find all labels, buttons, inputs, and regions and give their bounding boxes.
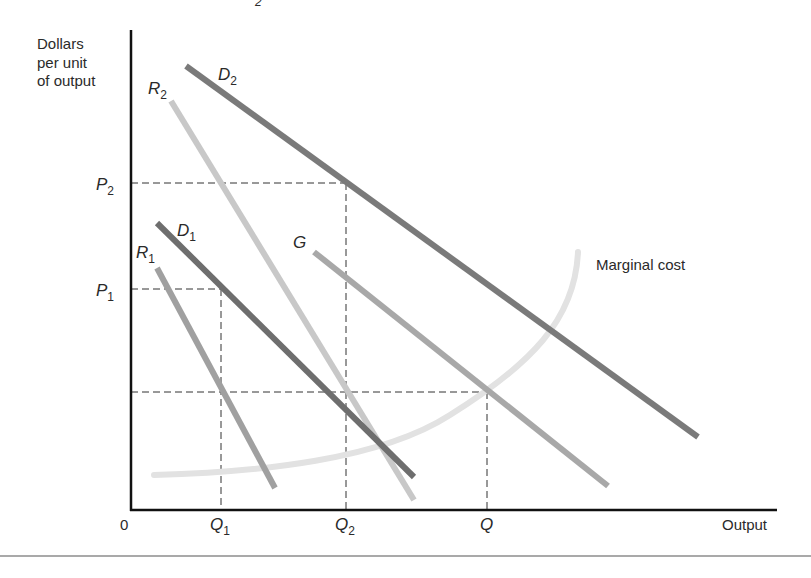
svg-text:Q2: Q2 xyxy=(335,515,355,538)
svg-text:G: G xyxy=(293,233,306,252)
y-axis-label-line1: Dollars xyxy=(37,35,84,52)
curve-label-g: G xyxy=(293,233,306,252)
svg-text:Q: Q xyxy=(480,515,493,534)
economics-diagram: 2 Dollars per unit of output D2 R2 D1 R1… xyxy=(0,0,811,578)
curve-label-d2: D2 xyxy=(218,65,237,88)
svg-text:R2: R2 xyxy=(148,79,167,102)
marginal-cost-label: Marginal cost xyxy=(596,256,686,273)
y-axis-label-line2: per unit xyxy=(37,54,88,71)
price-label-p2: P2 xyxy=(96,175,114,198)
svg-text:D2: D2 xyxy=(218,65,237,88)
quantity-label-q: Q xyxy=(480,515,493,534)
quantity-label-q2: Q2 xyxy=(335,515,355,538)
svg-text:Q1: Q1 xyxy=(210,515,230,538)
svg-text:R1: R1 xyxy=(136,243,155,266)
origin-label: 0 xyxy=(120,516,128,533)
quantity-label-q1: Q1 xyxy=(210,515,230,538)
y-axis-label-line3: of output xyxy=(37,72,96,89)
svg-text:P2: P2 xyxy=(96,175,114,198)
curve-label-d1: D1 xyxy=(177,221,196,244)
curve-r1 xyxy=(157,268,275,488)
svg-text:P1: P1 xyxy=(96,281,114,304)
price-label-p1: P1 xyxy=(96,281,114,304)
clipped-title-fragment: 2 xyxy=(254,0,262,9)
curve-label-r2: R2 xyxy=(148,79,167,102)
curve-d1 xyxy=(157,223,414,477)
svg-text:D1: D1 xyxy=(177,221,196,244)
x-axis-label: Output xyxy=(722,516,768,533)
curve-label-r1: R1 xyxy=(136,243,155,266)
